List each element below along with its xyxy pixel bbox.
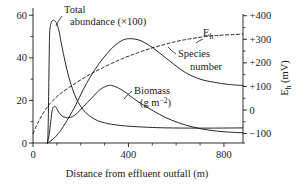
right-tick-label: +400 [250,10,272,21]
eh-leader [196,39,203,43]
left-tick-label: 0 [22,138,27,149]
total-abundance-label-line2: abundance (×100) [70,16,147,28]
species-number-annotation: Species number [178,48,223,72]
biomass-annotation: Biomass (g m−2) [134,85,172,109]
total-abundance-leader [56,16,62,26]
biomass-label-line1: Biomass [134,85,170,96]
species-number-leader [168,47,176,54]
biomass-label-close: ) [168,97,172,109]
total-abundance-annotation: Total abundance (×100) [64,4,147,28]
x-tick-label: 0 [30,149,35,160]
curve-eh [33,34,243,133]
eh-label: Eh [203,27,213,41]
left-tick-label: 40 [17,52,28,63]
biomass-label-sup: −2 [160,96,168,105]
figure-container: 0204060−1000+100+200+300+4000400800 Dist… [0,0,298,184]
right-tick-label: +300 [250,34,272,45]
right-tick-label: 0 [250,105,255,116]
x-axis-title: Distance from effluent outfall (m) [66,168,209,180]
svg-text:Eh (mV): Eh (mV) [279,60,293,96]
species-number-label-line1: Species [178,48,210,59]
left-tick-label: 20 [17,95,28,106]
x-tick-label: 400 [121,149,137,160]
species-number-label-line2: number [190,61,223,72]
biomass-label-line2: (g m−2) [140,96,172,110]
axes-group [29,8,247,147]
right-axis-title: Eh (mV) [279,60,293,96]
eh-label-sub: h [209,32,213,41]
right-axis-title-unit-text: (mV) [279,60,291,83]
curve-total-abundance [47,20,243,143]
right-tick-label: +200 [250,57,272,68]
x-tick-label: 800 [216,149,232,160]
eh-annotation: Eh [203,27,213,41]
total-abundance-label-line1: Total [64,4,86,15]
right-tick-label: +100 [250,81,272,92]
right-tick-label: −100 [250,128,272,139]
chart-canvas: 0204060−1000+100+200+300+4000400800 Dist… [0,0,298,184]
left-tick-label: 60 [17,10,28,21]
